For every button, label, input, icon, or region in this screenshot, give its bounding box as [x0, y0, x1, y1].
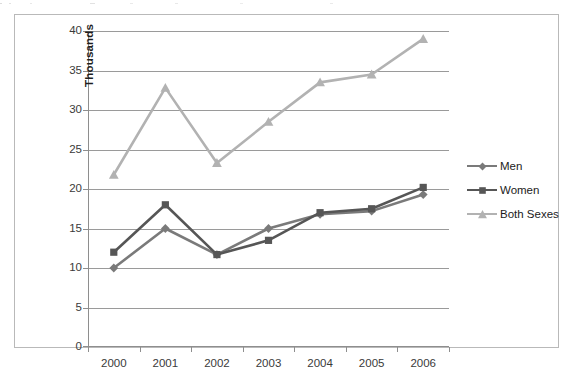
x-axis-tick-label: 2006	[393, 357, 453, 369]
x-axis-tick	[294, 347, 295, 352]
chart-legend: MenWomenBoth Sexes	[467, 154, 559, 226]
data-point-marker	[264, 224, 273, 233]
data-point-marker	[213, 251, 220, 258]
legend-label: Men	[500, 160, 522, 172]
data-point-marker	[110, 249, 117, 256]
legend-label: Women	[500, 184, 539, 196]
x-axis-tick	[397, 347, 398, 352]
legend-item-women[interactable]: Women	[467, 178, 559, 202]
y-axis-tick-label: 25	[42, 144, 82, 156]
data-point-marker	[316, 209, 323, 216]
data-point-marker	[478, 210, 487, 218]
y-axis-tick-label: 30	[42, 104, 82, 116]
square-marker-icon	[467, 183, 497, 197]
legend-label: Both Sexes	[500, 208, 559, 220]
x-axis-tick	[191, 347, 192, 352]
legend-item-men[interactable]: Men	[467, 154, 559, 178]
plot-area: 4035302520151050 Thousands 2000200120022…	[88, 31, 449, 347]
triangle-marker-icon	[467, 207, 497, 221]
y-axis-tick-label: 5	[42, 302, 82, 314]
data-point-marker	[368, 205, 375, 212]
series-lines-and-markers	[88, 31, 449, 347]
y-axis-tick-label: 0	[42, 341, 82, 353]
x-axis-tick	[346, 347, 347, 352]
y-axis-tick-label: 15	[42, 223, 82, 235]
data-point-marker	[265, 237, 272, 244]
chart-frame: 4035302520151050 Thousands 2000200120022…	[14, 14, 559, 348]
x-axis-tick	[449, 347, 450, 352]
x-axis-tick	[140, 347, 141, 352]
y-axis-tick-label: 20	[42, 183, 82, 195]
series-line	[114, 39, 423, 175]
y-axis-tick-labels: 4035302520151050	[36, 31, 82, 347]
x-axis-tick	[243, 347, 244, 352]
y-axis-tick-label: 10	[42, 262, 82, 274]
data-point-marker	[479, 187, 486, 194]
data-point-marker	[160, 83, 170, 92]
diamond-marker-icon	[467, 159, 497, 173]
legend-item-both-sexes[interactable]: Both Sexes	[467, 202, 559, 226]
series-line	[114, 187, 423, 254]
data-point-marker	[420, 184, 427, 191]
data-point-marker	[419, 190, 428, 199]
scan-artifact-line	[0, 3, 578, 4]
y-axis-tick-label: 40	[42, 25, 82, 37]
y-axis-tick-label: 35	[42, 65, 82, 77]
data-point-marker	[478, 162, 486, 170]
data-point-marker	[162, 201, 169, 208]
x-axis-tick	[88, 347, 89, 352]
data-point-marker	[418, 34, 428, 43]
